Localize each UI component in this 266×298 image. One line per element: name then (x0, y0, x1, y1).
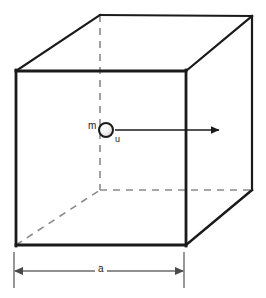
dimension-arrowhead-left (14, 267, 23, 275)
velocity-label: u (115, 135, 120, 144)
cube-diagram-svg (0, 0, 266, 298)
side-length-label: a (95, 264, 107, 274)
edge-back-top (100, 15, 252, 16)
figure-container: m u a (0, 0, 266, 298)
particle-sphere (99, 123, 113, 137)
edge-top-left-diagonal (16, 15, 100, 71)
edge-top-right-diagonal (186, 16, 252, 71)
dimension-arrowhead-right (175, 267, 184, 275)
mass-label: m (88, 121, 96, 131)
edge-bottom-right-diagonal (186, 190, 252, 245)
hidden-edge-bottom-left-diagonal (16, 190, 100, 245)
